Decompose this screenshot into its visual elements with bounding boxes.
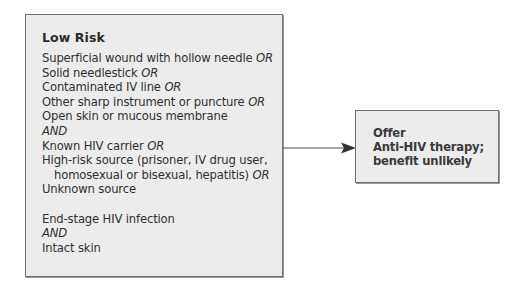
criteria-line: High-risk source (prisoner, IV drug user…	[42, 153, 282, 168]
recommendation-line: Anti-HIV therapy;	[373, 140, 498, 154]
low-risk-title: Low Risk	[42, 30, 282, 45]
recommendation-line: Offer	[373, 126, 498, 140]
criteria-line: Solid needlestick OR	[42, 66, 282, 81]
spacer	[42, 197, 282, 212]
criteria-line: Intact skin	[42, 241, 282, 256]
recommendation-box: Offer Anti-HIV therapy; benefit unlikely	[355, 110, 499, 183]
criteria-line: End-stage HIV infection	[42, 212, 282, 227]
criteria-line: Other sharp instrument or puncture OR	[42, 95, 282, 110]
and-connector: AND	[42, 226, 282, 241]
arrow-right-icon	[283, 141, 357, 155]
criteria-line-continued: homosexual or bisexual, hepatitis) OR	[42, 168, 282, 183]
and-connector: AND	[42, 124, 282, 139]
low-risk-criteria-box: Low Risk Superficial wound with hollow n…	[25, 14, 283, 277]
criteria-line: Unknown source	[42, 182, 282, 197]
criteria-line: Open skin or mucous membrane	[42, 109, 282, 124]
criteria-list: Superficial wound with hollow needle OR …	[42, 51, 282, 255]
criteria-line: Contaminated IV line OR	[42, 80, 282, 95]
recommendation-line: benefit unlikely	[373, 154, 498, 168]
criteria-line: Known HIV carrier OR	[42, 139, 282, 154]
criteria-line: Superficial wound with hollow needle OR	[42, 51, 282, 66]
